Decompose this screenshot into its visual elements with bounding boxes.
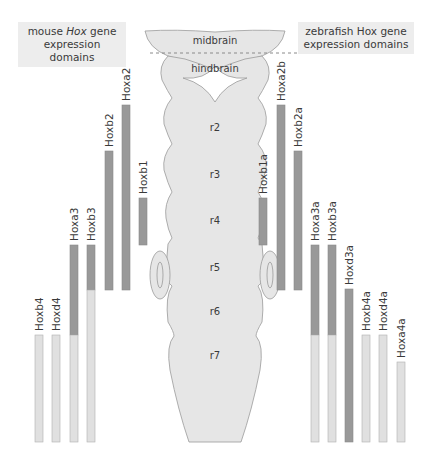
weak-expression-segment: [70, 335, 78, 442]
strong-expression-segment: [87, 245, 95, 290]
gene-bar-hoxb1a: Hoxb1a: [257, 154, 269, 245]
gene-bar-hoxa4a: Hoxa4a: [395, 318, 407, 442]
gene-label: Hoxb4a: [360, 291, 372, 331]
weak-expression-segment: [35, 335, 43, 442]
gene-bar-hoxa3a: Hoxa3a: [309, 201, 321, 442]
gene-bar-hoxa2b: Hoxa2b: [275, 61, 287, 290]
gene-label: Hoxb1a: [257, 154, 269, 194]
gene-label: Hoxd4a: [377, 291, 389, 331]
label-r3: r3: [210, 169, 220, 180]
gene-label: Hoxb2a: [292, 107, 304, 147]
label-r5: r5: [210, 262, 220, 273]
weak-expression-segment: [328, 335, 336, 442]
strong-expression-segment: [277, 105, 285, 290]
gene-bar-hoxa2: Hoxa2: [120, 68, 132, 290]
gene-bar-hoxb2a: Hoxb2a: [292, 107, 304, 290]
weak-expression-segment: [87, 290, 95, 442]
gene-bar-hoxa3: Hoxa3: [68, 208, 80, 442]
gene-bar-hoxd3a: Hoxd3a: [343, 245, 355, 442]
gene-label: Hoxb4: [33, 297, 45, 331]
label-hindbrain: hindbrain: [191, 63, 239, 74]
strong-expression-segment: [328, 245, 336, 335]
weak-expression-segment: [311, 335, 319, 442]
gene-bar-hoxb2: Hoxb2: [103, 113, 115, 290]
gene-label: Hoxa4a: [395, 318, 407, 358]
label-midbrain: midbrain: [193, 35, 238, 46]
weak-expression-segment: [397, 362, 405, 442]
weak-expression-segment: [362, 335, 370, 442]
zebrafish-bars: Hoxb1aHoxa2bHoxb2aHoxa3aHoxb3aHoxd3aHoxb…: [257, 61, 407, 442]
gene-bar-hoxd4a: Hoxd4a: [377, 291, 389, 442]
strong-expression-segment: [311, 245, 319, 335]
gene-bar-hoxb4: Hoxb4: [33, 297, 45, 442]
gene-label: Hoxb1: [137, 160, 149, 194]
label-r2: r2: [210, 122, 220, 133]
gene-label: Hoxa2: [120, 68, 132, 101]
gene-bar-hoxb3a: Hoxb3a: [326, 201, 338, 442]
gene-bar-hoxb1: Hoxb1: [137, 160, 149, 245]
strong-expression-segment: [259, 198, 267, 245]
strong-expression-segment: [122, 105, 130, 290]
gene-label: Hoxb3: [85, 207, 97, 241]
gene-label: Hoxb3a: [326, 201, 338, 241]
strong-expression-segment: [105, 151, 113, 290]
gene-label: Hoxd3a: [343, 245, 355, 285]
strong-expression-segment: [70, 245, 78, 335]
mouse-bars: Hoxb4Hoxd4Hoxa3Hoxb3Hoxb2Hoxa2Hoxb1: [33, 68, 149, 442]
gene-label: Hoxa2b: [275, 61, 287, 101]
strong-expression-segment: [345, 289, 353, 442]
label-r7: r7: [210, 350, 220, 361]
label-r4: r4: [210, 215, 220, 226]
gene-bar-hoxd4: Hoxd4: [50, 297, 62, 442]
hox-diagram: midbrain hindbrain r2 r3 r4 r5 r6 r7 Hox…: [0, 0, 432, 469]
weak-expression-segment: [52, 335, 60, 442]
gene-bar-hoxb4a: Hoxb4a: [360, 291, 372, 442]
weak-expression-segment: [379, 335, 387, 442]
strong-expression-segment: [294, 151, 302, 290]
gene-label: Hoxa3: [68, 208, 80, 241]
gene-bar-hoxb3: Hoxb3: [85, 207, 97, 442]
gene-label: Hoxa3a: [309, 201, 321, 241]
gene-label: Hoxb2: [103, 113, 115, 147]
gene-label: Hoxd4: [50, 297, 62, 331]
label-r6: r6: [210, 306, 220, 317]
strong-expression-segment: [139, 198, 147, 245]
